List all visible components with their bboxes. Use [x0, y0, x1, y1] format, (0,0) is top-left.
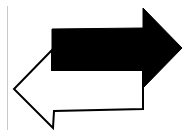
diagram-canvas	[0, 0, 188, 138]
arrows-graphic	[0, 0, 188, 138]
